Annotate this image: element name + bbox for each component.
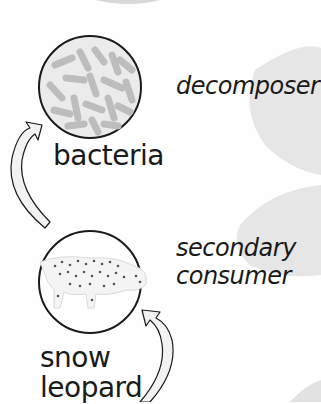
bacteria-icon: [39, 36, 141, 138]
snow-leopard-icon: [39, 231, 146, 333]
arrow-to-leopard: [140, 310, 173, 402]
organism-label-bacteria: bacteria: [53, 140, 164, 171]
background-shape: [290, 380, 321, 402]
role-label-secondary: secondary: [176, 234, 296, 262]
organism-label-snow: snow: [40, 342, 110, 373]
background-shape: [249, 46, 321, 175]
organism-label-leopard: leopard: [40, 372, 142, 403]
arrow-to-bacteria: [11, 122, 50, 228]
role-label-consumer: consumer: [176, 262, 291, 290]
role-label-decomposer: decomposer: [176, 72, 319, 100]
background-shape: [95, 0, 160, 4]
